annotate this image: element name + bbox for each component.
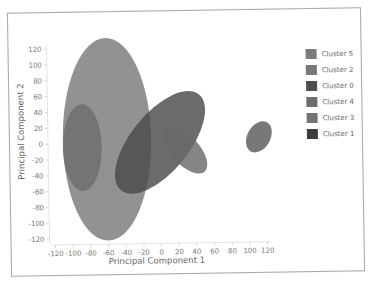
legend-swatch xyxy=(306,49,317,59)
legend-swatch xyxy=(306,97,317,107)
legend-item[interactable]: Cluster 2 xyxy=(306,64,354,75)
y-tick-label: -120 xyxy=(29,236,45,244)
legend: Cluster 5Cluster 2Cluster 0Cluster 4Clus… xyxy=(306,48,355,139)
y-tick-label: -60 xyxy=(32,188,44,196)
x-axis-title: Principal Component 1 xyxy=(109,255,206,267)
y-axis-title: Principal Component 2 xyxy=(15,83,27,180)
y-tick-label: 120 xyxy=(28,46,41,54)
x-tick-label: -100 xyxy=(65,250,81,258)
y-tick-label: 20 xyxy=(34,125,43,133)
y-tick-label: 80 xyxy=(33,77,42,85)
legend-label: Cluster 5 xyxy=(322,50,354,58)
legend-swatch xyxy=(307,129,318,139)
pca-cluster-chart: -120-100-80-60-40-2002040608010012012010… xyxy=(8,8,364,275)
cluster-ellipses xyxy=(61,35,279,241)
x-tick-label: 120 xyxy=(261,247,274,255)
x-tick-label: 100 xyxy=(243,247,256,255)
legend-item[interactable]: Cluster 1 xyxy=(307,128,355,139)
x-tick-label: 60 xyxy=(210,247,219,255)
cluster-ellipse-cluster-3 xyxy=(241,117,277,157)
y-tick-label: -20 xyxy=(32,157,44,165)
legend-item[interactable]: Cluster 5 xyxy=(306,48,354,59)
legend-swatch xyxy=(306,81,317,91)
legend-label: Cluster 2 xyxy=(322,66,354,74)
legend-item[interactable]: Cluster 4 xyxy=(306,96,354,107)
y-tick-label: 0 xyxy=(38,141,43,149)
legend-item[interactable]: Cluster 3 xyxy=(307,112,355,123)
legend-swatch xyxy=(307,113,318,123)
y-tick-label: 100 xyxy=(28,62,41,70)
x-tick-label: -80 xyxy=(85,249,97,257)
x-tick-label: 80 xyxy=(228,247,237,255)
legend-label: Cluster 0 xyxy=(322,82,354,90)
legend-label: Cluster 3 xyxy=(323,114,355,122)
legend-label: Cluster 1 xyxy=(323,130,355,138)
legend-item[interactable]: Cluster 0 xyxy=(306,80,354,91)
x-tick-label: -120 xyxy=(48,250,64,258)
legend-label: Cluster 4 xyxy=(322,98,354,107)
y-tick-label: -80 xyxy=(33,204,45,212)
y-tick-label: -100 xyxy=(28,220,44,228)
y-tick-label: 60 xyxy=(33,93,42,101)
y-tick-label: 40 xyxy=(34,109,43,117)
legend-swatch xyxy=(306,65,317,75)
chart-frame: -120-100-80-60-40-2002040608010012012010… xyxy=(7,7,365,277)
y-tick-label: -40 xyxy=(32,172,44,180)
